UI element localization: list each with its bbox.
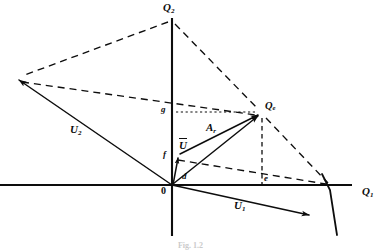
f-point-label: f	[163, 150, 166, 159]
qe-point-label: Qe	[265, 101, 276, 112]
solid-vectors-group	[19, 80, 337, 235]
ar-vector-label: Ar	[206, 122, 216, 135]
u2-vector-label: U2	[70, 124, 81, 137]
d-point-label: d	[182, 172, 187, 181]
axes-group	[0, 18, 352, 236]
diagram-canvas	[0, 0, 381, 250]
q2-axis-label: Q2	[163, 2, 174, 15]
dashed-origin-to-axispoint	[178, 160, 326, 184]
vector-u2-arrow	[19, 80, 172, 185]
origin-label: 0	[161, 186, 166, 196]
e-point-label: e	[264, 174, 268, 183]
dashed-qe-to-axispoint	[266, 118, 328, 183]
figure-caption: Fig. 1.2	[0, 241, 381, 250]
vector-diagram-figure: Q2 Q1 Qe U2 U1 U Ar g e f d 0 Fig. 1.2	[0, 0, 381, 250]
ubar-vector-label: U	[179, 140, 187, 151]
q1-axis-label: Q1	[362, 186, 373, 199]
dashed-left-to-qe	[22, 82, 256, 115]
dashed-construction-group	[22, 22, 328, 184]
u1-vector-label: U1	[234, 200, 245, 213]
dashed-q2apex-to-left	[22, 22, 168, 76]
g-point-label: g	[161, 105, 166, 114]
dashed-q2apex-to-qe	[175, 24, 258, 109]
